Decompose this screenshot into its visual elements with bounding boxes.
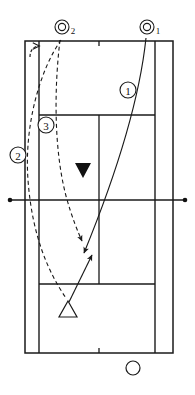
net-post-left: [8, 198, 13, 203]
court-svg: 2 1 1 2 3: [0, 0, 195, 395]
shot-badge-2-label: 2: [15, 150, 21, 162]
player-open-triangle-marker[interactable]: [59, 301, 77, 317]
player-circle-marker[interactable]: [126, 361, 140, 375]
ball-marker-1[interactable]: 1: [140, 20, 160, 36]
shot-badge-1[interactable]: 1: [120, 82, 136, 98]
ball-marker-2[interactable]: 2: [55, 20, 75, 36]
shot-path-1: [84, 38, 146, 253]
ball-marker-2-label: 2: [71, 26, 76, 36]
shot-path-3: [69, 255, 92, 302]
shot-badge-3[interactable]: 3: [38, 117, 54, 133]
shot-badges: 1 2 3: [10, 82, 136, 163]
court-lines: [8, 41, 188, 353]
net-post-right: [183, 198, 188, 203]
shot-badge-3-label: 3: [43, 120, 49, 132]
player-filled-triangle-marker[interactable]: [75, 163, 91, 178]
hook-arrow: [30, 46, 39, 57]
ball-marker-2-inner: [58, 23, 65, 30]
shot-badge-2[interactable]: 2: [10, 147, 26, 163]
shot-badge-1-label: 1: [125, 85, 131, 97]
ball-marker-1-inner: [143, 23, 150, 30]
move-path-3: [56, 40, 82, 241]
tennis-court-diagram: 2 1 1 2 3: [0, 0, 195, 395]
ball-markers: 2 1: [55, 20, 160, 36]
ball-marker-1-label: 1: [156, 26, 161, 36]
